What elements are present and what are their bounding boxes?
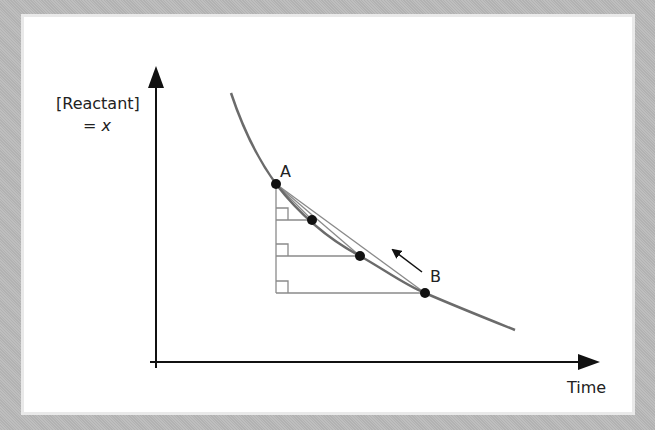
- point-a-label: A: [280, 162, 291, 181]
- point-intermediate-2: [355, 251, 365, 261]
- x-axis-label: Time: [566, 378, 606, 397]
- y-axis-label: [Reactant]: [56, 94, 140, 113]
- secant-lines: [276, 184, 425, 293]
- y-axis-arrow-icon: [148, 66, 164, 88]
- rate-diagram: [Reactant] = x Time A B: [0, 0, 655, 430]
- approach-arrow-icon: [393, 250, 422, 272]
- concentration-curve: [231, 93, 515, 330]
- point-b-label: B: [430, 267, 441, 286]
- point-b: [420, 288, 430, 298]
- y-axis-sublabel: = x: [83, 116, 112, 135]
- point-intermediate-1: [307, 215, 317, 225]
- x-axis-arrow-icon: [578, 354, 600, 370]
